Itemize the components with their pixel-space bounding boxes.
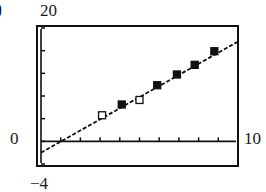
data-points	[99, 48, 218, 119]
open-square-marker	[99, 112, 106, 119]
filled-square-marker	[173, 71, 180, 78]
open-square-marker	[136, 96, 143, 103]
filled-square-marker	[154, 82, 161, 89]
filled-square-marker	[118, 101, 125, 108]
scatter-plot	[0, 0, 266, 192]
filled-square-marker	[211, 48, 218, 55]
filled-square-marker	[191, 61, 198, 68]
